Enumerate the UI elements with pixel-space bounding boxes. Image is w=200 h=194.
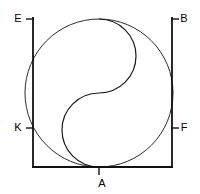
- s-divider-curve: [62, 19, 136, 167]
- point-label-f: F: [178, 122, 190, 133]
- figure-container: E B K F A: [0, 0, 200, 194]
- point-label-k: K: [12, 122, 24, 133]
- geometry-diagram: [0, 0, 200, 194]
- point-label-e: E: [12, 13, 24, 24]
- point-label-b: B: [178, 13, 190, 24]
- point-label-a: A: [96, 178, 108, 189]
